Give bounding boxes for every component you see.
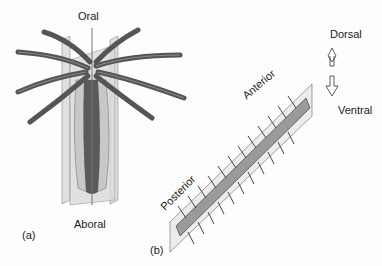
- label-oral: Oral: [78, 10, 99, 22]
- label-ventral: Ventral: [338, 104, 372, 116]
- diagram-canvas: Oral Aboral (a) (b) Anterior Posterior D…: [0, 0, 382, 266]
- radial-animal: [18, 28, 184, 205]
- panel-a-tag: (a): [22, 229, 35, 241]
- panel-b-tag: (b): [150, 244, 163, 256]
- label-dorsal: Dorsal: [330, 28, 362, 40]
- symmetry-illustration: [0, 0, 382, 266]
- label-aboral: Aboral: [74, 218, 106, 230]
- ventral-arrow-icon: [326, 76, 338, 96]
- dorsal-arrow-icon: [328, 48, 336, 66]
